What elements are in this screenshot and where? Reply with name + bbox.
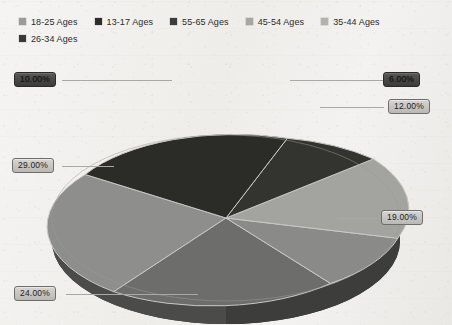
legend-row-1: 18-25 Ages 13-17 Ages 55-65 Ages 45-54 A… [0, 13, 452, 30]
legend-item-26-34-ages[interactable]: 26-34 Ages [19, 34, 78, 44]
legend-label: 13-17 Ages [107, 17, 154, 27]
chart-legend: 18-25 Ages 13-17 Ages 55-65 Ages 45-54 A… [0, 13, 452, 47]
legend-item-13-17-ages[interactable]: 13-17 Ages [95, 17, 154, 27]
data-label-10-percent[interactable]: 10.00% [14, 72, 56, 87]
legend-swatch-icon [19, 35, 26, 42]
leader-line-right-lower [338, 218, 380, 219]
legend-swatch-icon [19, 18, 26, 25]
pie-chart: 10.00% 6.00% 12.00% 19.00% 29.00% 24.00% [0, 58, 452, 325]
legend-label: 35-44 Ages [333, 17, 380, 27]
legend-item-55-65-ages[interactable]: 55-65 Ages [170, 17, 229, 27]
legend-swatch-icon [95, 18, 102, 25]
legend-swatch-icon [170, 18, 177, 25]
leader-line-top-left [62, 80, 172, 81]
leader-line-top-right [290, 80, 383, 81]
data-label-19-percent[interactable]: 19.00% [381, 210, 423, 225]
data-label-12-percent[interactable]: 12.00% [388, 99, 430, 114]
legend-label: 18-25 Ages [31, 17, 78, 27]
leader-line-right-upper [320, 107, 384, 108]
legend-item-35-44-ages[interactable]: 35-44 Ages [321, 17, 380, 27]
legend-item-18-25-ages[interactable]: 18-25 Ages [19, 17, 78, 27]
legend-label: 45-54 Ages [258, 17, 305, 27]
leader-line-bottom-left [66, 294, 198, 295]
legend-item-45-54-ages[interactable]: 45-54 Ages [246, 17, 305, 27]
legend-label: 55-65 Ages [182, 17, 229, 27]
data-label-6-percent[interactable]: 6.00% [383, 72, 420, 87]
data-label-29-percent[interactable]: 29.00% [12, 158, 54, 173]
legend-swatch-icon [321, 18, 328, 25]
legend-row-2: 26-34 Ages [0, 30, 452, 47]
data-label-24-percent[interactable]: 24.00% [14, 286, 56, 301]
legend-swatch-icon [246, 18, 253, 25]
legend-label: 26-34 Ages [31, 34, 78, 44]
leader-line-left [62, 166, 114, 167]
pie-chart-svg [0, 58, 452, 325]
